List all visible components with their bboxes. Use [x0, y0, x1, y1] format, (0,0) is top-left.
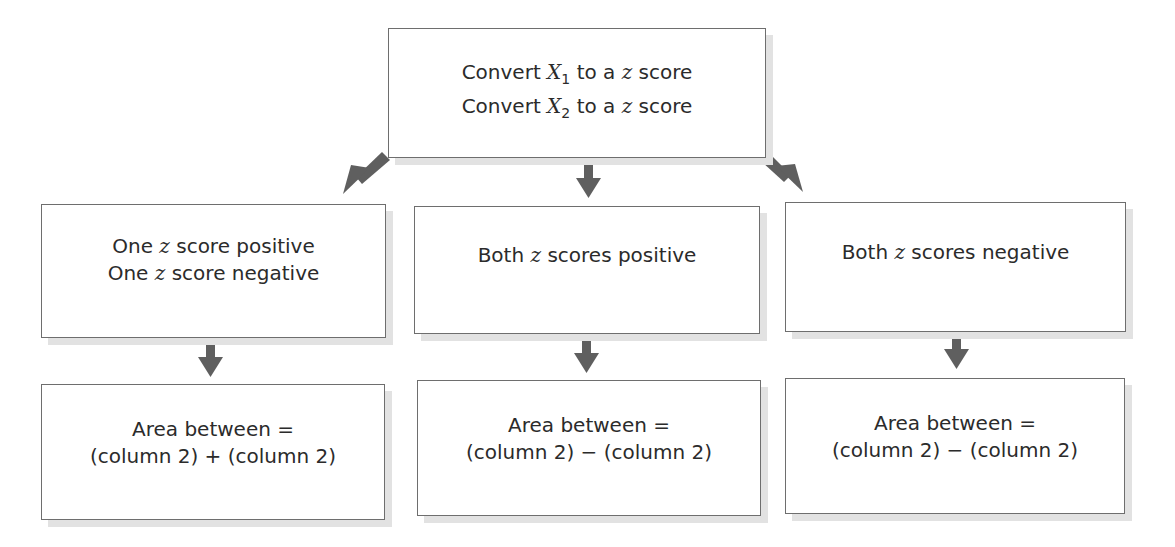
condition-1-line-1: One z score positive	[112, 233, 315, 260]
arrow-to-result-2-icon	[574, 333, 599, 373]
condition-box-both-positive: Both z scores positive	[414, 206, 760, 334]
condition-2-line-1: Both z scores positive	[478, 242, 697, 269]
condition-1-line-2: One z score negative	[108, 260, 320, 287]
result-2-line-2: (column 2) − (column 2)	[466, 439, 712, 466]
result-box-difference-positive: Area between = (column 2) − (column 2)	[417, 380, 761, 516]
result-3-line-1: Area between =	[874, 410, 1036, 437]
condition-box-mixed-signs: One z score positive One z score negativ…	[41, 204, 386, 338]
arrow-to-case-1-icon	[343, 152, 390, 194]
arrow-to-result-3-icon	[944, 331, 969, 369]
condition-3-line-1: Both z scores negative	[842, 239, 1070, 266]
result-1-line-1: Area between =	[132, 416, 294, 443]
result-3-line-2: (column 2) − (column 2)	[832, 437, 1078, 464]
start-box: Convert X1 to a z score Convert X2 to a …	[388, 28, 766, 158]
result-box-difference-negative: Area between = (column 2) − (column 2)	[785, 378, 1125, 514]
start-line-1: Convert X1 to a z score	[462, 59, 693, 93]
start-line-2: Convert X2 to a z score	[462, 93, 693, 127]
result-1-line-2: (column 2) + (column 2)	[90, 443, 336, 470]
arrow-to-result-1-icon	[198, 337, 223, 377]
condition-box-both-negative: Both z scores negative	[785, 202, 1126, 332]
arrow-to-case-3-icon	[762, 154, 803, 192]
arrow-to-case-2-icon	[576, 155, 601, 198]
result-2-line-1: Area between =	[508, 412, 670, 439]
result-box-sum: Area between = (column 2) + (column 2)	[41, 384, 385, 520]
